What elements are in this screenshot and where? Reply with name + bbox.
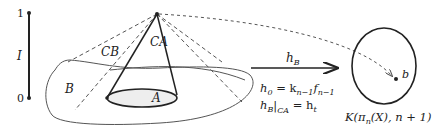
- label-b: b: [402, 68, 409, 81]
- interval-bottom-label: 0: [17, 92, 24, 105]
- interval-top-label: 1: [17, 7, 24, 20]
- equation-2: hB|CA = ht: [260, 98, 317, 115]
- point-b: [394, 77, 398, 81]
- label-CB: CB: [101, 45, 119, 59]
- equation-1: h0 = kn−1fn−1: [260, 81, 335, 97]
- label-A: A: [151, 91, 161, 105]
- interval-name: I: [16, 49, 22, 63]
- disk-point: [105, 96, 109, 100]
- target-space-K: [352, 28, 416, 104]
- label-CA: CA: [150, 35, 168, 49]
- cone-apex: [155, 12, 159, 16]
- diagram-canvas: 1 0 I CB CA B A hB h0 = kn−1fn−1 hB|CA =…: [0, 0, 440, 133]
- arrow-label: hB: [286, 51, 300, 67]
- band-line: [110, 67, 245, 80]
- interval-I: 1 0 I: [16, 7, 31, 105]
- target-space-label: K(πn(X), n + 1): [344, 110, 431, 126]
- disk-A: [107, 89, 177, 107]
- label-B: B: [64, 82, 74, 96]
